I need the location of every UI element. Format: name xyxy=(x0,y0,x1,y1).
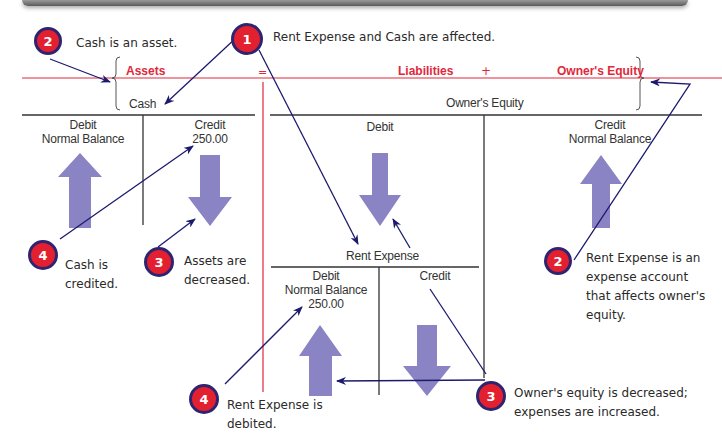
callout-text-2a: Cash is an asset. xyxy=(76,35,177,51)
callout-badge-2a: 2 xyxy=(34,27,62,55)
callout-text-4a: Cash is credited. xyxy=(65,256,125,294)
arrow-up-cash-debit xyxy=(58,153,102,228)
cash-credit-label: Credit xyxy=(180,118,240,132)
callout-badge-4a: 4 xyxy=(28,240,58,270)
arrow-up-rent-debit xyxy=(299,325,342,396)
callout-text-3a: Assets are decreased. xyxy=(184,252,254,290)
oe-credit-label: Credit xyxy=(560,118,660,132)
callout-badge-3a: 3 xyxy=(144,247,174,277)
rent-debit-normal-balance: Normal Balance xyxy=(276,283,376,297)
callout-badge-1: 1 xyxy=(231,23,263,55)
rent-account-title: Rent Expense xyxy=(346,249,419,263)
oe-account-title: Owner's Equity xyxy=(446,96,524,110)
equation-assets: Assets xyxy=(126,64,165,78)
callout-text-4b: Rent Expense is debited. xyxy=(227,396,327,434)
arrow-down-rent-credit xyxy=(403,325,451,396)
oe-credit-normal-balance: Normal Balance xyxy=(560,132,660,146)
equation-equals: = xyxy=(258,66,267,79)
cash-debit-label: Debit xyxy=(28,118,138,132)
callout-text-1: Rent Expense and Cash are affected. xyxy=(273,29,495,45)
callout-text-2b: Rent Expense is an expense account that … xyxy=(586,249,716,325)
cash-debit-normal-balance: Normal Balance xyxy=(28,132,138,146)
rent-debit-amount: 250.00 xyxy=(276,297,376,311)
callout-badge-2b: 2 xyxy=(544,247,572,275)
cash-account-title: Cash xyxy=(129,97,156,111)
rent-credit-label: Credit xyxy=(400,269,470,283)
assets-brace xyxy=(112,57,120,110)
equation-owners-equity: Owner's Equity xyxy=(557,64,644,78)
equation-plus: + xyxy=(481,64,491,78)
callout-text-3b: Owner's equity is decreased; expenses ar… xyxy=(514,384,714,422)
arrow-down-oe-debit xyxy=(359,153,401,226)
oe-debit-label: Debit xyxy=(350,120,410,134)
rent-debit-label: Debit xyxy=(276,269,376,283)
equation-liabilities: Liabilities xyxy=(398,64,453,78)
arrow-up-oe-credit xyxy=(580,155,622,228)
cash-credit-amount: 250.00 xyxy=(180,132,240,146)
callout-badge-3b: 3 xyxy=(476,381,506,411)
arrow-down-cash-credit xyxy=(188,155,232,226)
callout-badge-4b: 4 xyxy=(189,384,219,414)
